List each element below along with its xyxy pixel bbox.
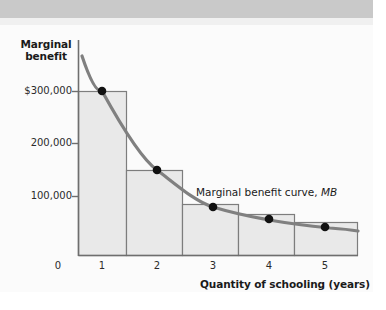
y-axis-title: Marginal benefit xyxy=(14,38,78,62)
x-tick-label-5: 5 xyxy=(315,260,335,271)
y-tick-label-2: 100,000 xyxy=(4,190,72,201)
bar-series xyxy=(79,92,358,256)
x-tick-label-0: 0 xyxy=(48,260,68,271)
x-tick-label-3: 3 xyxy=(203,260,223,271)
x-tick-label-1: 1 xyxy=(92,260,112,271)
y-axis-title-text: Marginal benefit xyxy=(20,38,71,62)
bar-1 xyxy=(79,92,127,256)
y-tick-label-2-wrap: 100,000 xyxy=(0,190,72,202)
y-tick-label-1-wrap: 200,000 xyxy=(0,137,72,149)
data-point-4 xyxy=(265,215,274,224)
figure-container: Marginal benefit $300,000 200,000 100,00… xyxy=(0,0,386,310)
curve-annotation-text: Marginal benefit curve, xyxy=(196,186,321,198)
x-tick-label-4: 4 xyxy=(259,260,279,271)
y-tick-label-0: $300,000 xyxy=(4,85,72,96)
data-point-5 xyxy=(321,223,330,232)
y-tick-label-1: 200,000 xyxy=(4,137,72,148)
x-tick-label-2: 2 xyxy=(147,260,167,271)
x-axis-title-text: Quantity of schooling (years) xyxy=(200,278,370,290)
data-point-3 xyxy=(209,203,218,212)
data-point-2 xyxy=(153,166,162,175)
curve-annotation-symbol: MB xyxy=(321,186,337,198)
data-point-1 xyxy=(98,87,107,96)
x-axis-title: Quantity of schooling (years) xyxy=(200,278,370,290)
y-tick-label-0-wrap: $300,000 xyxy=(0,85,72,97)
curve-annotation: Marginal benefit curve, MB xyxy=(196,186,337,198)
